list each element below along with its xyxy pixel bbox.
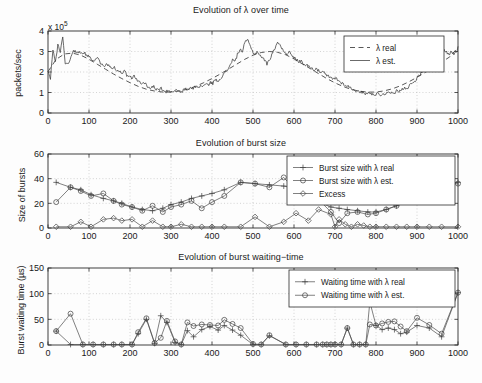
x-tick-label: 100 xyxy=(81,348,96,358)
x-tick-label: 900 xyxy=(409,348,424,358)
y-tick-label: 3 xyxy=(39,47,44,57)
x-tick-label: 400 xyxy=(204,348,219,358)
legend-entry-label: Burst size with λ est. xyxy=(319,177,394,186)
x-tick-label: 400 xyxy=(204,116,219,126)
x-tick-label: 300 xyxy=(163,116,178,126)
panel-lambda-evolution: Evolution of λ over time packets/sec x 1… xyxy=(0,0,482,140)
y-tick-label: 50 xyxy=(34,315,44,325)
x-tick-label: 900 xyxy=(409,116,424,126)
y-tick-label: 40 xyxy=(34,174,44,184)
y-tick-label: 0 xyxy=(39,223,44,233)
legend: λ realλ est. xyxy=(344,36,444,72)
x-tick-label: 900 xyxy=(409,231,424,241)
figure-panel-stack: Evolution of λ over time packets/sec x 1… xyxy=(0,0,482,383)
panel-lambda-plot: 0100200300400500600700800900100001234λ r… xyxy=(0,0,482,140)
x-tick-label: 600 xyxy=(286,348,301,358)
x-tick-label: 800 xyxy=(368,348,383,358)
panel-waiting-time: Evolution of burst waiting−time Burst wa… xyxy=(0,248,482,383)
x-tick-label: 700 xyxy=(327,348,342,358)
y-tick-label: 4 xyxy=(39,26,44,36)
y-tick-label: 0 xyxy=(39,340,44,350)
x-tick-label: 0 xyxy=(45,231,50,241)
legend-entry-label: Burst size with λ real xyxy=(319,164,394,173)
legend: Waiting time with λ realWaiting time wit… xyxy=(289,270,455,307)
series-2 xyxy=(53,207,460,230)
legend-entry-label: λ real xyxy=(376,44,396,53)
x-tick-label: 200 xyxy=(122,116,137,126)
x-tick-label: 1000 xyxy=(448,231,468,241)
x-tick-label: 700 xyxy=(327,231,342,241)
x-tick-label: 1000 xyxy=(448,116,468,126)
x-tick-label: 300 xyxy=(163,231,178,241)
y-tick-label: 1 xyxy=(39,88,44,98)
x-tick-label: 800 xyxy=(368,116,383,126)
x-tick-label: 300 xyxy=(163,348,178,358)
panel-waiting-time-plot: 0100200300400500600700800900100005010015… xyxy=(0,248,482,383)
x-tick-label: 1000 xyxy=(448,348,468,358)
x-tick-label: 600 xyxy=(286,231,301,241)
x-tick-label: 200 xyxy=(122,231,137,241)
legend-entry-label: Waiting time with λ real xyxy=(321,278,405,287)
legend: Burst size with λ realBurst size with λ … xyxy=(287,156,455,205)
legend-entry-label: Excess xyxy=(319,190,345,199)
x-tick-label: 600 xyxy=(286,116,301,126)
y-tick-label: 20 xyxy=(34,199,44,209)
y-tick-label: 60 xyxy=(34,149,44,159)
x-tick-label: 0 xyxy=(45,348,50,358)
x-tick-label: 500 xyxy=(245,231,260,241)
x-tick-label: 500 xyxy=(245,348,260,358)
panel-burst-size-plot: 010020030040050060070080090010000204060B… xyxy=(0,132,482,256)
x-tick-label: 800 xyxy=(368,231,383,241)
x-tick-label: 400 xyxy=(204,231,219,241)
x-tick-label: 500 xyxy=(245,116,260,126)
x-tick-label: 100 xyxy=(81,116,96,126)
y-tick-label: 2 xyxy=(39,67,44,77)
x-tick-label: 0 xyxy=(45,116,50,126)
y-tick-label: 150 xyxy=(29,263,44,273)
x-tick-label: 200 xyxy=(122,348,137,358)
panel-burst-size: Evolution of burst size Size of bursts 0… xyxy=(0,132,482,256)
legend-entry-label: Waiting time with λ est. xyxy=(321,291,404,300)
y-tick-label: 100 xyxy=(29,289,44,299)
x-tick-label: 100 xyxy=(81,231,96,241)
y-tick-label: 0 xyxy=(39,108,44,118)
x-tick-label: 700 xyxy=(327,116,342,126)
legend-entry-label: λ est. xyxy=(376,57,396,66)
